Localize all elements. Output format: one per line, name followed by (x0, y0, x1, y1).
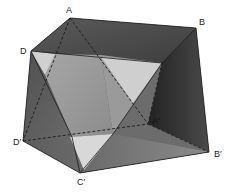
vertex-label-B: B (199, 17, 205, 27)
vertex-label-Cprime: C′ (77, 177, 85, 187)
vertex-label-D: D (20, 46, 27, 56)
vertex-label-Aprime: A′ (152, 116, 160, 126)
vertex-label-A: A (66, 5, 72, 15)
vertex-label-Bprime: B′ (214, 149, 222, 159)
geometry-figure: A B D D′ C′ B′ A′ (0, 0, 232, 194)
vertex-label-Dprime: D′ (13, 137, 21, 147)
